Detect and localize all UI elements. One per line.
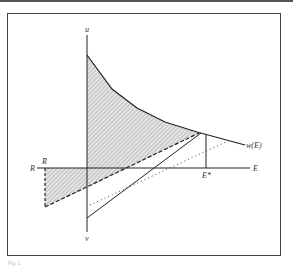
- label-w-curve: w(E): [246, 141, 262, 150]
- label-r-bar: R̄: [41, 157, 47, 166]
- surplus-region-lower: [45, 168, 87, 207]
- label-v: v: [85, 234, 89, 243]
- economic-diagram: u v R E R̄ E* w(E): [0, 0, 293, 269]
- label-e-star: E*: [201, 171, 211, 180]
- label-u: u: [85, 25, 89, 34]
- label-r: R: [29, 164, 35, 173]
- figure-caption: Fig. 1: [8, 260, 21, 266]
- label-e: E: [252, 164, 258, 173]
